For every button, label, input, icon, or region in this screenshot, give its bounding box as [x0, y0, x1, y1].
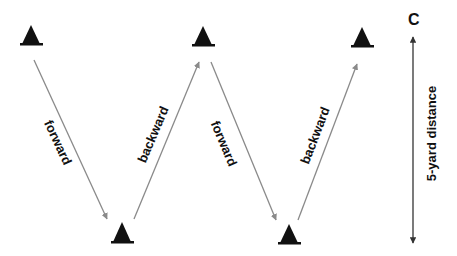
- marker-c-label: C: [408, 12, 420, 28]
- cone-4: [278, 224, 301, 245]
- drill-diagram: [0, 0, 457, 256]
- cone-2: [111, 222, 134, 244]
- cone-5: [351, 27, 374, 48]
- cone-3: [192, 26, 215, 47]
- distance-label: 5-yard distance: [425, 74, 438, 194]
- cone-1: [20, 25, 43, 46]
- path-arrow-forward-1: [34, 60, 107, 219]
